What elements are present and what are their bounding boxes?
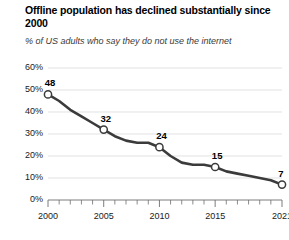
x-axis-tick-label: 2015 [205,211,225,221]
x-axis-group [48,200,282,207]
data-point-label: 15 [212,150,223,161]
line-chart-svg: 0%10%20%30%40%50%60% 2000200520102015202… [0,60,289,240]
data-point-marker [100,126,107,133]
y-axis-tick-label: 30% [25,128,43,138]
x-axis-tick-label: 2021 [272,211,289,221]
page-title: Offline population has declined substant… [25,4,275,30]
data-point-marker [156,144,163,151]
x-axis-labels-group: 20002005201020152021 [38,211,289,221]
data-point-label: 48 [45,77,56,88]
chart-page: Offline population has declined substant… [0,0,289,240]
x-axis-tick-label: 2005 [94,211,114,221]
data-point-label: 7 [278,168,283,179]
data-point-label: 24 [156,130,167,141]
x-axis-tick-label: 2000 [38,211,58,221]
y-axis-tick-label: 20% [25,150,43,160]
y-axis-tick-label: 60% [25,62,43,72]
data-point-marker [278,181,285,188]
data-point-marker [44,91,51,98]
chart-area: 0%10%20%30%40%50%60% 2000200520102015202… [0,60,289,240]
data-point-marker [212,163,219,170]
data-point-label: 32 [100,113,111,124]
y-axis-tick-label: 40% [25,106,43,116]
data-point-labels-group: 483224157 [45,77,284,178]
x-axis-tick-label: 2010 [149,211,169,221]
gridlines-group [48,68,282,178]
y-axis-tick-label: 0% [30,194,43,204]
y-axis-labels-group: 0%10%20%30%40%50%60% [25,62,43,204]
chart-header: Offline population has declined substant… [25,4,275,47]
y-axis-tick-label: 10% [25,172,43,182]
chart-subtitle: % of US adults who say they do not use t… [25,30,275,47]
y-axis-tick-label: 50% [25,84,43,94]
